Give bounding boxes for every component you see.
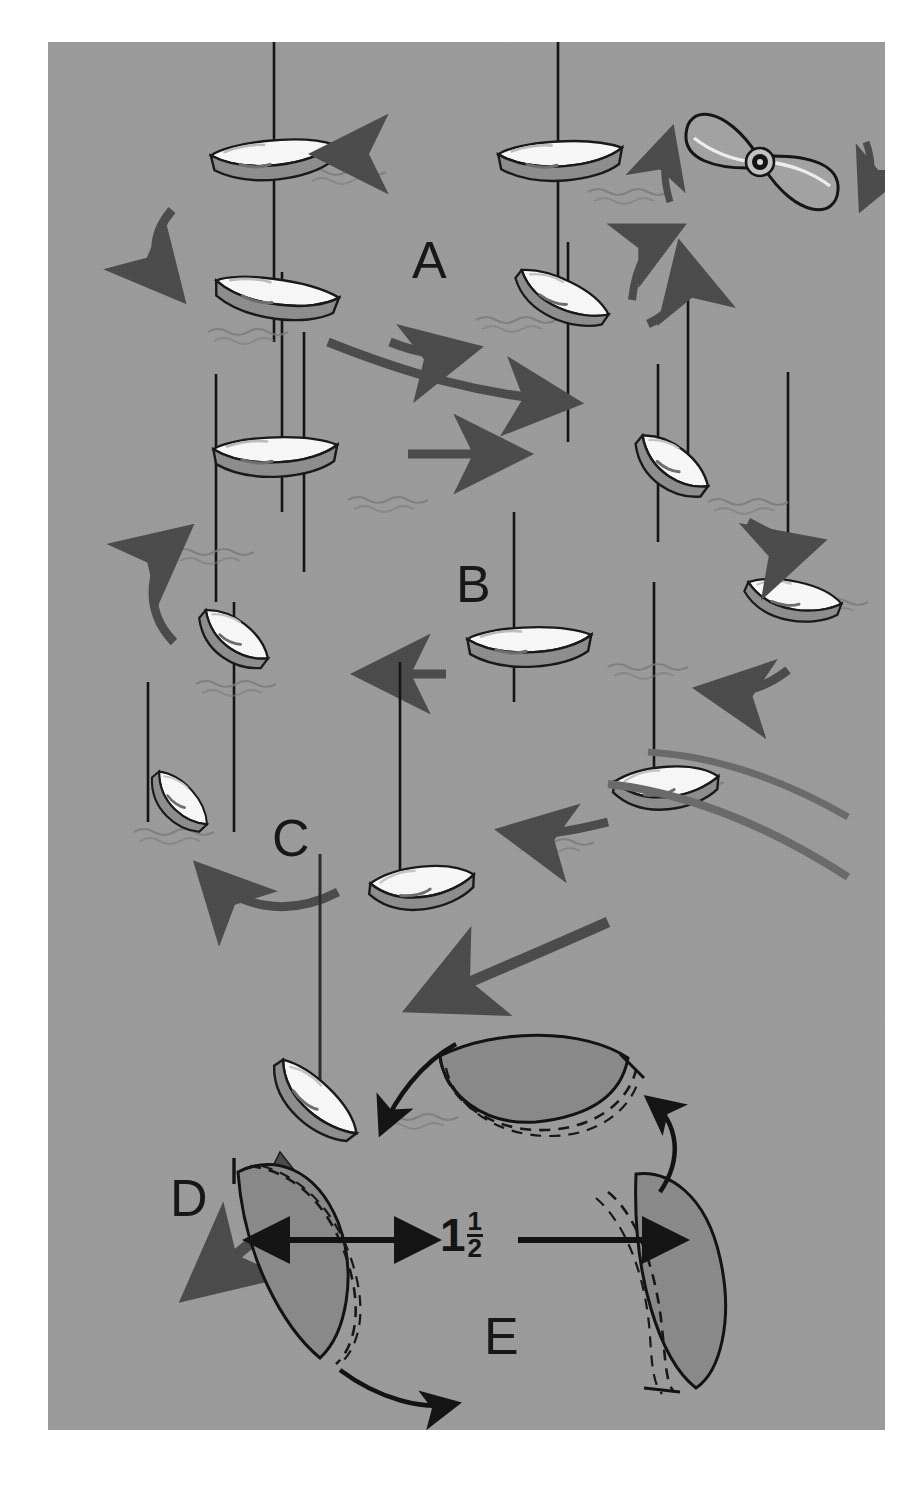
rotation-arrow-down-icon [864,142,871,202]
section-label-e: E [484,1310,519,1362]
section-label-a: A [412,234,447,286]
arrow-c-left [204,872,338,907]
arrow-b-lowerright [708,670,788,692]
boat-b2 [625,431,718,502]
boat-b5 [189,606,277,673]
boat-d1 [257,1054,370,1151]
blade-right [636,1174,726,1388]
wake [476,317,556,332]
arrow-c-right [510,822,608,834]
illustration-panel: A B C D E 1 1 2 [48,42,885,1430]
wake [608,664,688,679]
section-label-b: B [456,558,491,610]
wake [708,499,788,514]
arrow-c-to-d [420,922,608,1004]
blade-right-tip-mark [644,1388,680,1392]
dimension-fraction: 1 2 [467,1210,483,1261]
dimension-whole: 1 [440,1212,466,1258]
boat-a2 [498,137,624,185]
boat-b1 [213,434,339,480]
section-label-c: C [272,812,310,864]
arrow-a-left [156,210,176,292]
wake [514,839,594,854]
wake [174,549,254,564]
arrow-a-bottom [390,342,468,353]
wake [196,681,276,696]
boat-c2 [365,851,479,924]
dimension-label: 1 1 2 [440,1210,483,1261]
rotation-arrow-up-icon [665,136,670,202]
boat-c1 [138,767,219,836]
propeller-hub-bore [757,159,763,165]
arrow-b-right [748,522,812,545]
wake [208,329,288,344]
figure-stage: A B C D E 1 1 2 [0,0,912,1485]
propeller-icon-group [632,114,871,300]
dimension-denominator: 2 [467,1237,483,1261]
section-label-d: D [170,1172,208,1224]
rotation-arrow-up-from-below-icon [632,230,674,300]
wake [588,189,668,204]
wake [348,497,428,512]
blade-left [238,1165,348,1358]
boat-b3 [743,578,842,623]
section-c-group [134,662,848,1004]
blade-top [440,1035,628,1122]
blade-rotation-arrow-bottom [340,1370,454,1406]
wake [134,829,214,844]
boat-a3 [212,272,340,326]
boat-b4 [467,624,593,670]
boat-a4 [507,265,614,333]
arrow-a-right [648,254,684,324]
wake [306,169,386,184]
section-b-group [153,332,868,832]
